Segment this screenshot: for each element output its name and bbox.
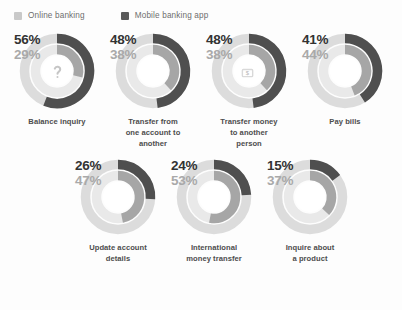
- legend-swatch-mobile-banking-app: [121, 12, 129, 20]
- chart-label-pay-bills: Pay bills: [302, 117, 388, 128]
- chart-label-line: person: [236, 139, 262, 148]
- chart-label-line: to another: [230, 128, 268, 137]
- donut-gauge-balance-inquiry: 56%29%: [18, 32, 96, 110]
- donut-chart-transfer-between-accounts: 48%38%Transfer fromone account toanother: [105, 32, 201, 149]
- question-mark-icon: [42, 56, 72, 86]
- chart-label-update-account-details: Update accountdetails: [75, 243, 161, 265]
- donut-gauge-inquire-about-product: 15%37%: [271, 158, 349, 236]
- document-edit-icon: [103, 182, 133, 212]
- chart-label-line: Balance inquiry: [28, 117, 85, 126]
- donut-gauge-international-money-transfer: 24%53%: [175, 158, 253, 236]
- chart-row-top: 56%29%Balance inquiry48%38%Transfer from…: [0, 32, 402, 149]
- legend-swatch-online-banking: [14, 12, 22, 20]
- donut-gauge-transfer-between-accounts: 48%38%: [114, 32, 192, 110]
- shuffle-arrows-icon: [138, 56, 168, 86]
- legend-item-online-banking: Online banking: [14, 11, 85, 20]
- donut-chart-international-money-transfer: 24%53%Internationalmoney transfer: [166, 158, 262, 265]
- donut-gauge-update-account-details: 26%47%: [79, 158, 157, 236]
- donut-chart-balance-inquiry: 56%29%Balance inquiry: [9, 32, 105, 149]
- legend-item-mobile-banking-app: Mobile banking app: [121, 11, 209, 20]
- chart-label-international-money-transfer: Internationalmoney transfer: [171, 243, 257, 265]
- chart-label-line: another: [139, 139, 167, 148]
- chart-label-line: a product: [292, 254, 327, 263]
- donut-chart-transfer-to-person: $48%38%Transfer moneyto anotherperson: [201, 32, 297, 149]
- donut-chart-pay-bills: 41%44%Pay bills: [297, 32, 393, 149]
- chart-label-line: one account to: [126, 128, 181, 137]
- currency-exchange-icon: [199, 182, 229, 212]
- chart-label-transfer-between-accounts: Transfer fromone account toanother: [110, 117, 196, 149]
- chart-label-line: details: [106, 254, 130, 263]
- legend-label-mobile-banking-app: Mobile banking app: [135, 11, 209, 20]
- donut-chart-update-account-details: 26%47%Update accountdetails: [70, 158, 166, 265]
- chart-label-line: Update account: [89, 243, 147, 252]
- donut-chart-inquire-about-product: 15%37%Inquire abouta product: [262, 158, 358, 265]
- chart-label-line: money transfer: [186, 254, 242, 263]
- credit-card-icon: [330, 56, 360, 86]
- chart-label-inquire-about-product: Inquire abouta product: [267, 243, 353, 265]
- chart-label-transfer-to-person: Transfer moneyto anotherperson: [206, 117, 292, 149]
- chart-legend: Online banking Mobile banking app: [14, 11, 208, 20]
- legend-label-online-banking: Online banking: [28, 11, 85, 20]
- open-box-icon: [295, 182, 325, 212]
- chart-label-line: Transfer money: [220, 117, 277, 126]
- banknotes-icon: $: [234, 56, 264, 86]
- chart-label-line: International: [191, 243, 237, 252]
- donut-gauge-pay-bills: 41%44%: [306, 32, 384, 110]
- chart-label-balance-inquiry: Balance inquiry: [14, 117, 100, 128]
- donut-gauge-transfer-to-person: $48%38%: [210, 32, 288, 110]
- chart-label-line: Transfer from: [128, 117, 178, 126]
- chart-label-line: Pay bills: [329, 117, 360, 126]
- chart-row-bottom: 26%47%Update accountdetails24%53%Interna…: [0, 158, 402, 265]
- chart-label-line: Inquire about: [286, 243, 335, 252]
